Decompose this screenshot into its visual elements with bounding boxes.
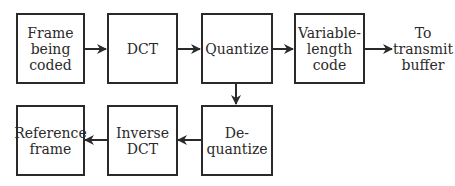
node-reference-frame: Reference frame <box>16 105 85 176</box>
node-dequantize: De- quantize <box>201 105 273 176</box>
node-to-transmit-buffer: To transmit buffer <box>392 25 454 73</box>
node-quantize: Quantize <box>201 13 273 84</box>
node-frame-being-coded: Frame being coded <box>16 13 85 84</box>
node-inverse-dct: Inverse DCT <box>107 105 178 176</box>
node-dct: DCT <box>107 13 178 84</box>
node-variable-length-code: Variable- length code <box>294 13 365 84</box>
